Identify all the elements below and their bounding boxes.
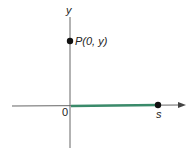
- diagram-canvas: y P(0, y) 0 s: [0, 0, 195, 159]
- point-p: [67, 38, 73, 44]
- origin-label: 0: [62, 106, 68, 118]
- x-axis-arrow-icon: [178, 102, 186, 108]
- segment-0-to-s: [71, 105, 158, 106]
- y-axis-label: y: [65, 4, 73, 16]
- point-s-label: s: [156, 108, 162, 120]
- point-p-label: P(0, y): [75, 35, 108, 47]
